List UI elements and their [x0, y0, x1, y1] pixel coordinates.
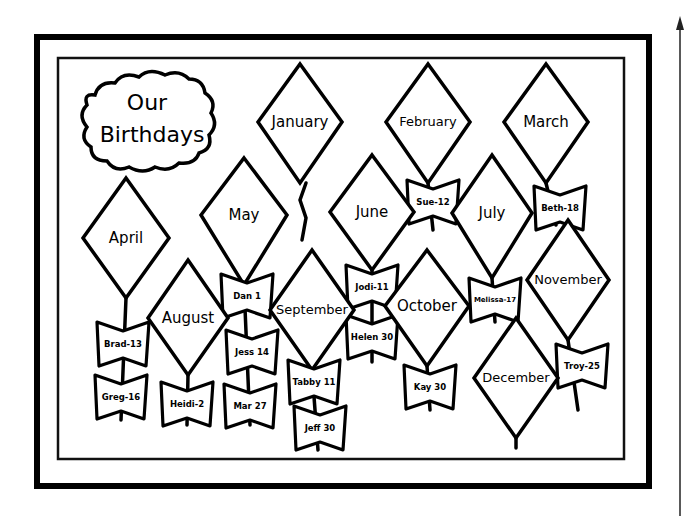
title-line-1: Our [127, 90, 168, 115]
birthday-label: Troy-25 [564, 361, 600, 371]
kite-tail [300, 183, 306, 240]
birthday-bow: Beth-18 [534, 186, 586, 230]
birthday-label: Sue-12 [416, 197, 449, 207]
title-cloud: Our Birthdays [82, 71, 215, 171]
birthday-label: Greg-16 [102, 392, 140, 402]
month-label: March [523, 113, 569, 131]
kite-december: December [474, 318, 558, 448]
birthday-bow: Jess 14 [226, 330, 278, 374]
month-label: November [534, 272, 602, 287]
month-label: May [228, 206, 259, 224]
arrow-up-icon [676, 16, 684, 30]
birthday-label: Brad-13 [104, 339, 142, 349]
birthday-label: Heidi-2 [170, 399, 204, 409]
month-label: October [397, 297, 458, 315]
month-label: January [271, 113, 329, 131]
month-label: September [276, 302, 349, 317]
month-label: February [399, 114, 457, 129]
birthday-label: Mar 27 [233, 401, 266, 411]
birthday-bow: Sue-12 [407, 180, 459, 224]
month-label: April [109, 229, 143, 247]
kite-august: AugustHeidi-2 [148, 260, 228, 426]
birthday-label: Dan 1 [233, 291, 261, 301]
birthday-bow: Melissa-17 [469, 278, 521, 322]
birthday-bow: Troy-25 [556, 344, 608, 388]
month-label: July [478, 204, 506, 222]
birthday-label: Jess 14 [234, 347, 269, 357]
birthday-bow: Kay 30 [404, 365, 456, 409]
birthday-label: Jeff 30 [304, 423, 336, 433]
birthday-label: Kay 30 [414, 382, 446, 392]
month-label: December [482, 370, 550, 385]
birthday-bow: Jeff 30 [294, 406, 346, 450]
birthday-label: Jodi-11 [354, 282, 388, 292]
birthday-board: Our Birthdays JanuaryFebruarySue-12March… [0, 0, 685, 516]
birthday-label: Melissa-17 [474, 296, 516, 304]
title-line-2: Birthdays [100, 122, 205, 147]
birthday-label: Beth-18 [541, 203, 579, 213]
month-label: June [355, 203, 389, 221]
kite-september: SeptemberTabby 11Jeff 30 [270, 250, 354, 450]
kite-april: AprilBrad-13Greg-16 [83, 178, 169, 420]
month-label: August [162, 309, 215, 327]
birthday-label: Tabby 11 [293, 377, 336, 387]
birthday-label: Helen 30 [351, 332, 393, 342]
